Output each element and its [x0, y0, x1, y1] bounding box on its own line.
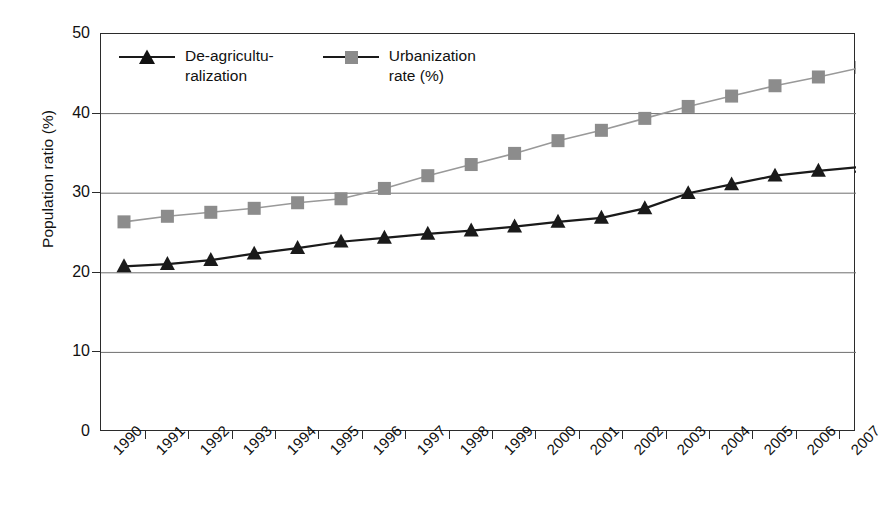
- data-point: [855, 61, 856, 74]
- data-point: [161, 210, 174, 223]
- x-tick-mark: [145, 431, 146, 439]
- x-tick-mark: [579, 431, 580, 439]
- x-tick-mark: [275, 431, 276, 439]
- y-tick-label: 10: [46, 343, 90, 359]
- data-point: [552, 134, 565, 147]
- x-tick-mark: [535, 431, 536, 439]
- x-tick-mark: [449, 431, 450, 439]
- data-point: [854, 159, 856, 173]
- data-point: [378, 182, 391, 195]
- x-tick-mark: [622, 431, 623, 439]
- plot-area: [100, 33, 855, 431]
- y-tick-label: 30: [46, 184, 90, 200]
- data-point: [291, 196, 304, 209]
- y-tick-label: 40: [46, 105, 90, 121]
- x-tick-mark: [666, 431, 667, 439]
- data-point: [335, 192, 348, 205]
- y-tick-mark: [92, 192, 100, 193]
- data-point: [465, 158, 478, 171]
- series-line-de-agriculturalization: [124, 167, 856, 267]
- x-tick-mark: [362, 431, 363, 439]
- y-axis-tick-labels: 01020304050: [38, 0, 90, 512]
- data-point: [248, 202, 261, 215]
- y-tick-label: 0: [46, 423, 90, 439]
- square-marker-icon: [322, 47, 380, 67]
- data-point: [421, 169, 434, 182]
- y-tick-mark: [92, 351, 100, 352]
- series-line-urbanization-rate: [124, 67, 856, 221]
- x-tick-mark: [405, 431, 406, 439]
- x-tick-mark: [752, 431, 753, 439]
- x-tick-mark: [188, 431, 189, 439]
- x-tick-mark: [232, 431, 233, 439]
- x-tick-mark: [839, 431, 840, 439]
- data-point: [638, 112, 651, 125]
- data-point: [204, 206, 217, 219]
- y-tick-label: 50: [46, 25, 90, 41]
- data-point: [769, 79, 782, 92]
- data-point: [118, 215, 131, 228]
- chart-figure: Population ratio (%) 01020304050 De-agri…: [0, 0, 892, 512]
- x-tick-mark: [318, 431, 319, 439]
- x-tick-mark: [709, 431, 710, 439]
- y-tick-label: 20: [46, 264, 90, 280]
- triangle-marker-icon: [118, 47, 176, 67]
- data-point: [682, 100, 695, 113]
- legend-label-de-agriculturalization: De-agricultu- ralization: [185, 46, 274, 85]
- data-point: [812, 70, 825, 83]
- data-point: [508, 147, 521, 160]
- data-point: [595, 124, 608, 137]
- data-point: [725, 90, 738, 103]
- chart-legend: De-agricultu- ralization Urbanization ra…: [118, 46, 476, 85]
- legend-label-urbanization-rate: Urbanization rate (%): [389, 46, 476, 85]
- y-tick-mark: [92, 113, 100, 114]
- legend-entry-de-agriculturalization: De-agricultu- ralization: [118, 46, 274, 85]
- y-tick-mark: [92, 272, 100, 273]
- x-tick-mark: [796, 431, 797, 439]
- plot-svg: [101, 34, 856, 432]
- x-tick-mark: [492, 431, 493, 439]
- legend-entry-urbanization-rate: Urbanization rate (%): [322, 46, 476, 85]
